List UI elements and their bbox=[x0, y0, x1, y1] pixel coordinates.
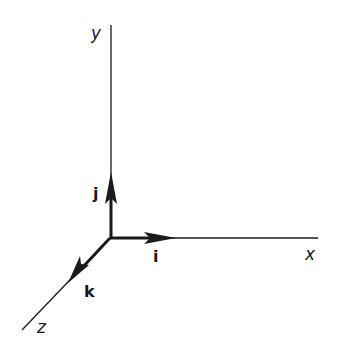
unit-vector-k bbox=[68, 238, 110, 283]
arrowhead-k-icon bbox=[68, 256, 89, 283]
x-axis-label: x bbox=[304, 244, 316, 264]
vector-i-label: i bbox=[153, 247, 158, 266]
vector-j-label: j bbox=[92, 184, 98, 203]
coordinate-axes-diagram: y x z j i k bbox=[0, 0, 341, 359]
unit-vector-i bbox=[110, 232, 176, 244]
vector-k-label: k bbox=[84, 282, 95, 301]
y-axis-label: y bbox=[90, 23, 102, 43]
unit-vector-j bbox=[105, 172, 117, 238]
z-axis-label: z bbox=[36, 317, 47, 337]
